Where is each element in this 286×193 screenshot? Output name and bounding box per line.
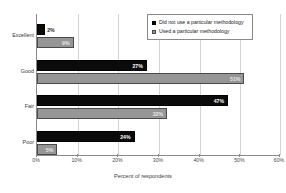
category-label-poor: Poor <box>1 138 34 146</box>
x-axis-ticks: 0% 10% 20% 30% 40% 50% 60% <box>36 157 280 167</box>
bar-value-excellent-used: 9% <box>62 38 70 49</box>
bar-chart: Excellent 2% 9% Good 27% 51% Fair 47% <box>0 0 286 193</box>
x-axis-title: Percent of respondents <box>0 173 286 179</box>
bar-poor-did-not-use: 24% <box>37 131 135 142</box>
bar-value-good-used: 51% <box>230 74 240 85</box>
bar-good-did-not-use: 27% <box>37 60 147 71</box>
x-tickmark-30 <box>158 154 159 157</box>
category-label-good: Good <box>1 67 34 75</box>
x-tick-40: 40% <box>193 157 203 163</box>
bar-value-fair-did-not-use: 47% <box>214 96 224 107</box>
bar-value-excellent-did-not-use: 2% <box>47 25 55 36</box>
x-tick-60: 60% <box>274 157 284 163</box>
category-row-fair: Fair 47% 32% <box>37 89 280 125</box>
x-tickmark-60 <box>279 154 280 157</box>
legend-swatch-gray-icon <box>152 30 156 34</box>
x-tick-50: 50% <box>234 157 244 163</box>
x-tick-20: 20% <box>112 157 122 163</box>
x-tickmark-20 <box>117 154 118 157</box>
legend-swatch-dark-icon <box>152 21 156 25</box>
x-tick-30: 30% <box>153 157 163 163</box>
legend-label-used: Used a particular methodology <box>159 28 229 35</box>
bar-excellent-did-not-use: 2% <box>37 24 45 35</box>
x-tickmark-40 <box>199 154 200 157</box>
category-label-fair: Fair <box>1 102 34 110</box>
bar-fair-did-not-use: 47% <box>37 95 228 106</box>
bar-good-used: 51% <box>37 73 244 84</box>
legend-item-used[interactable]: Used a particular methodology <box>152 27 248 36</box>
category-row-good: Good 27% 51% <box>37 54 280 90</box>
category-label-excellent: Excellent <box>1 31 34 39</box>
bar-value-poor-did-not-use: 24% <box>120 132 130 143</box>
bar-fair-used: 32% <box>37 108 167 119</box>
legend-item-did-not-use[interactable]: Did not use a particular methodology <box>152 18 248 27</box>
gridline-60 <box>280 14 281 155</box>
x-tick-0: 0% <box>32 157 40 163</box>
x-tickmark-50 <box>239 154 240 157</box>
legend-label-did-not-use: Did not use a particular methodology <box>159 19 244 26</box>
chart-legend: Did not use a particular methodology Use… <box>147 14 253 40</box>
bar-value-fair-used: 32% <box>153 109 163 120</box>
bar-excellent-used: 9% <box>37 37 74 48</box>
x-tickmark-0 <box>36 154 37 157</box>
bar-value-good-did-not-use: 27% <box>132 61 142 72</box>
x-tickmark-10 <box>77 154 78 157</box>
bar-value-poor-used: 5% <box>46 145 54 156</box>
bar-poor-used: 5% <box>37 144 57 155</box>
x-tick-10: 10% <box>71 157 81 163</box>
